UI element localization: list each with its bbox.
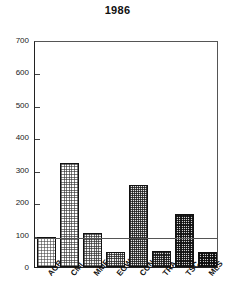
y-axis-tick-label: 200 xyxy=(0,199,29,207)
bar-con xyxy=(129,185,147,267)
bar-series xyxy=(35,42,217,267)
y-axis-tick-label: 700 xyxy=(0,37,29,45)
y-axis-tick-label: 600 xyxy=(0,69,29,77)
plot-area xyxy=(34,41,218,268)
bar-egw xyxy=(106,252,124,267)
y-axis-tick-label: 400 xyxy=(0,134,29,142)
y-axis-tick-label: 100 xyxy=(0,232,29,240)
bar-agr xyxy=(37,237,55,267)
bar-tsc xyxy=(175,214,193,267)
bar-chart: 1986 0100200300400500600700 AGRCMIMMFEGW… xyxy=(0,0,235,308)
chart-title: 1986 xyxy=(0,4,235,16)
bar-tra xyxy=(152,251,170,267)
y-axis-tick-label: 300 xyxy=(0,167,29,175)
reference-line xyxy=(35,238,217,239)
y-axis-tick-label: 500 xyxy=(0,102,29,110)
bar-mls xyxy=(198,252,216,267)
y-axis-tick-label: 0 xyxy=(0,264,29,272)
bar-cmi xyxy=(60,163,78,267)
